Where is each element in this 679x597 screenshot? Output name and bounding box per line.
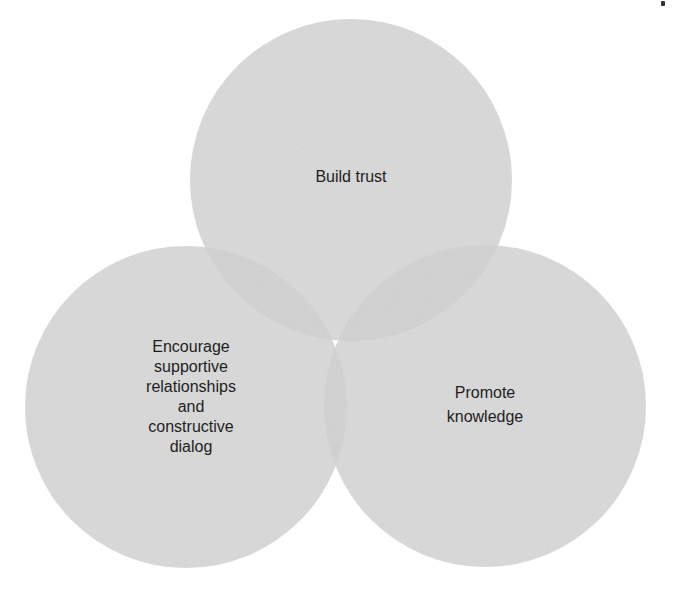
venn-circles	[0, 0, 679, 597]
label-promote-knowledge: Promote knowledge	[425, 381, 545, 429]
venn-diagram: Build trust Encourage supportive relatio…	[0, 0, 679, 597]
label-encourage-relationships: Encourage supportive relationships and c…	[126, 337, 256, 457]
label-build-trust: Build trust	[291, 167, 411, 187]
scan-artifact-dot	[661, 1, 665, 6]
